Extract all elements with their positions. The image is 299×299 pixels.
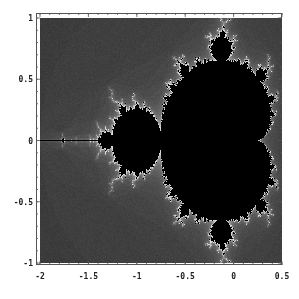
x-tick-label: -1: [132, 272, 142, 281]
x-tick-label: 0.5: [275, 272, 289, 281]
y-tick-label: 0.5: [19, 75, 33, 84]
mandelbrot-image: [40, 18, 282, 263]
mandelbrot-plot: -2-1.5-1-0.500.5 10.50-0.5-1: [0, 0, 299, 299]
x-tick-label: -0.5: [176, 272, 195, 281]
y-tick-label: -0.5: [14, 197, 33, 206]
x-tick-label: -2: [35, 272, 45, 281]
x-tick-label: 0: [231, 272, 236, 281]
x-tick-label: -1.5: [79, 272, 98, 281]
y-tick-label: 1: [28, 14, 33, 23]
y-tick-label: -1: [23, 259, 33, 268]
y-tick-label: 0: [28, 136, 33, 145]
